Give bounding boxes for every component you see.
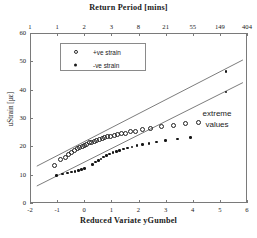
x-tick-4 [139,200,140,203]
y-tick-label-1: 10 [6,171,26,178]
filled-dot-icon [74,63,77,66]
x-axis-title: Reduced Variate yGumbel [0,216,257,225]
y-tick-label-6: 60 [6,29,26,36]
x-tick-5 [166,200,167,203]
open-circle-icon [74,49,78,53]
y-tick-3 [30,118,33,119]
x-tick-label-0: -2 [18,206,42,213]
top-tick-3 [111,33,112,36]
extreme-values-annotation: extreme values [184,108,250,130]
x-tick-label-3: 1 [99,206,123,213]
y-tick-1 [30,175,33,176]
legend-label-nve: -ve strain [93,61,119,68]
legend-label-pve: +ve strain [93,48,121,55]
top-tick-7 [220,33,221,36]
x-tick-2 [84,200,85,203]
x-tick-label-7: 5 [208,206,232,213]
x-tick-label-4: 2 [127,206,151,213]
top-tick-5 [166,33,167,36]
y-tick-4 [30,90,33,91]
legend-entry-pve: +ve strain [61,45,147,58]
y-tick-label-0: 0 [6,199,26,206]
top-tick-label-6: 55 [179,23,207,30]
x-tick-8 [247,200,248,203]
x-tick-label-8: 6 [235,206,257,213]
top-tick-2 [84,33,85,36]
x-tick-label-2: 0 [72,206,96,213]
y-axis-title: uStrain [µε] [7,74,15,144]
top-tick-label-5: 21 [152,23,180,30]
top-tick-4 [139,33,140,36]
x-tick-7 [220,200,221,203]
y-tick-5 [30,61,33,62]
top-tick-6 [193,33,194,36]
x-tick-label-6: 4 [181,206,205,213]
top-tick-1 [57,33,58,36]
annotation-line-1: extreme [184,108,250,119]
x-tick-1 [57,200,58,203]
legend-entry-nve: -ve strain [61,58,147,71]
y-tick-0 [30,203,33,204]
x-tick-label-5: 3 [154,206,178,213]
x-tick-label-1: -1 [45,206,69,213]
x-tick-6 [193,200,194,203]
top-tick-label-2: 2 [70,23,98,30]
legend: +ve strain -ve strain [60,43,146,71]
y-tick-label-5: 50 [6,57,26,64]
top-tick-label-4: 8 [125,23,153,30]
annotation-line-2: values [184,119,250,130]
y-tick-6 [30,33,33,34]
top-tick-label-8: 404 [233,23,257,30]
y-tick-2 [30,146,33,147]
top-tick-label-1: 1 [43,23,71,30]
x-tick-3 [111,200,112,203]
chart-figure: Return Period [mins] -2-1012345611238215… [0,0,257,238]
top-tick-8 [247,33,248,36]
top-tick-label-3: 3 [97,23,125,30]
top-tick-label-7: 149 [206,23,234,30]
